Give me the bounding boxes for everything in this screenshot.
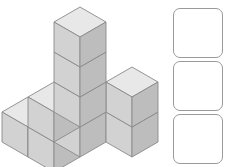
answer-option-3[interactable]: [173, 114, 223, 164]
answer-option-2[interactable]: [173, 61, 223, 111]
puzzle-canvas: .t { fill: #e8e8e8; stroke: #8a8a8a; str…: [0, 0, 233, 167]
cube-stack-svg: .t { fill: #e8e8e8; stroke: #8a8a8a; str…: [0, 0, 165, 167]
answer-options: [165, 0, 233, 167]
answer-option-1[interactable]: [173, 8, 223, 58]
cube-stack-figure: .t { fill: #e8e8e8; stroke: #8a8a8a; str…: [0, 0, 165, 167]
